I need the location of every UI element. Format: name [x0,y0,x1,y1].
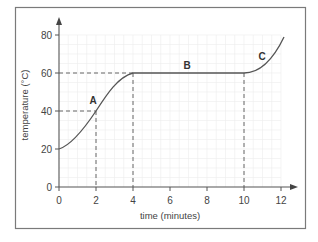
x-tick-label: 8 [204,195,210,206]
y-axis-arrow-icon [56,17,62,25]
y-tick-label: 80 [41,30,53,41]
x-tick-label: 4 [130,195,136,206]
x-tick-label: 2 [93,195,99,206]
y-axis-label: temperature (°C) [19,70,30,141]
x-ticks: 0 2 4 6 8 10 12 [56,187,287,206]
label-a: A [89,95,96,106]
label-c: C [258,51,265,62]
y-tick-label: 40 [41,106,53,117]
x-tick-label: 6 [167,195,173,206]
grid [59,35,281,187]
x-tick-label: 0 [56,195,62,206]
x-tick-label: 10 [238,195,250,206]
heating-curve-chart: 0 20 40 60 80 0 2 4 6 8 10 12 time (minu… [0,0,318,242]
y-ticks: 0 20 40 60 80 [41,30,59,193]
x-axis-arrow-icon [290,184,298,190]
y-tick-label: 20 [41,144,53,155]
label-b: B [183,60,190,71]
x-axis-label: time (minutes) [140,210,200,221]
x-tick-label: 12 [275,195,287,206]
y-tick-label: 60 [41,68,53,79]
y-tick-label: 0 [46,182,52,193]
